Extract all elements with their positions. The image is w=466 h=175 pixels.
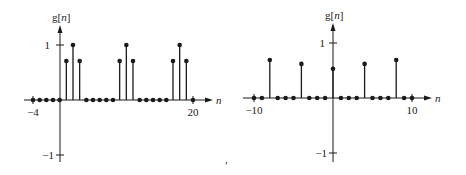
stem-point (378, 96, 383, 101)
stem-point (268, 58, 273, 63)
stem-point (394, 58, 399, 63)
left-ytick-label-neg1: −1 (42, 149, 54, 161)
left-ytick-label-1: 1 (45, 39, 51, 51)
stem-point (191, 98, 196, 103)
stem-point (44, 98, 49, 103)
right-ylabel: g[n] (325, 9, 343, 21)
stem-point (275, 96, 280, 101)
stem-point (117, 59, 122, 64)
stem-point (104, 98, 109, 103)
right-xlabel: n (435, 92, 441, 104)
stem-point (339, 96, 344, 101)
left-xlabel: n (216, 94, 222, 106)
left-ylabel: g[n] (52, 11, 70, 23)
stem-point (184, 59, 189, 64)
right-stem-plot: g[n] n 1 −1 −10 10 (243, 9, 441, 162)
stem-point (71, 43, 76, 48)
stem-point (331, 67, 336, 72)
stem-point (37, 98, 42, 103)
stem-point (157, 98, 162, 103)
right-xtick-label-min: −10 (245, 104, 263, 116)
left-stem-plot: g[n] n 1 −1 −4 20 (24, 11, 222, 162)
stem-point (291, 96, 296, 101)
stem-point (177, 43, 182, 48)
stem-point (144, 98, 149, 103)
stem-point (171, 59, 176, 64)
stem-point (77, 59, 82, 64)
right-ytick-label-1: 1 (320, 37, 326, 49)
stem-point (354, 96, 359, 101)
stem-point (386, 96, 391, 101)
stem-point (84, 98, 89, 103)
right-y-arrow-icon (331, 23, 336, 31)
stem-point (362, 62, 367, 67)
stem-point (51, 98, 56, 103)
stem-point (315, 96, 320, 101)
stem-point (283, 96, 288, 101)
left-y-arrow-icon (58, 25, 63, 33)
stem-point (151, 98, 156, 103)
stem-point (299, 62, 304, 67)
stem-point (97, 98, 102, 103)
stem-point (124, 43, 129, 48)
stem-point (137, 98, 142, 103)
stem-point (347, 96, 352, 101)
stem-point (410, 96, 415, 101)
stem-point (57, 98, 62, 103)
stem-point (91, 98, 96, 103)
stem-point (402, 96, 407, 101)
stem-point (260, 96, 265, 101)
stem-point (31, 98, 36, 103)
stem-point (370, 96, 375, 101)
separator-comma: , (225, 153, 228, 165)
right-xtick-label-max: 10 (407, 104, 419, 116)
stem-point (164, 98, 169, 103)
stem-point (64, 59, 69, 64)
figure: g[n] n 1 −1 −4 20 , g[n] n 1 −1 −10 10 (0, 0, 466, 175)
left-xtick-label-min: −4 (27, 106, 39, 118)
right-ytick-label-neg1: −1 (315, 147, 327, 159)
left-stems (31, 43, 196, 103)
stem-point (111, 98, 116, 103)
stem-point (307, 96, 312, 101)
stem-point (323, 96, 328, 101)
left-xtick-label-max: 20 (188, 106, 200, 118)
right-x-arrow-icon (424, 96, 432, 101)
left-x-arrow-icon (205, 98, 213, 103)
stem-point (252, 96, 257, 101)
stem-point (131, 59, 136, 64)
